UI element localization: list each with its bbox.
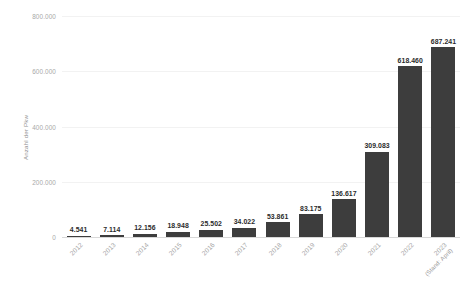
- bar[interactable]: [398, 66, 422, 237]
- bar-value-label: 12.156: [134, 224, 155, 231]
- y-axis-title: Anzahl der Pkw: [22, 60, 36, 160]
- x-axis-tick-year: 2015: [167, 241, 183, 257]
- x-axis-tick-year: 2021: [366, 241, 382, 257]
- x-axis-tick-year: 2017: [234, 241, 250, 257]
- bar[interactable]: [199, 230, 223, 237]
- bar[interactable]: [166, 232, 190, 237]
- bar[interactable]: [332, 199, 356, 237]
- bar-group: 83.175: [299, 16, 323, 237]
- bar[interactable]: [266, 222, 290, 237]
- bar-value-label: 18.948: [167, 222, 188, 229]
- bar-value-label: 136.617: [331, 190, 356, 197]
- bar-group: 7.114: [100, 16, 124, 237]
- x-axis-tick-year: 2018: [267, 241, 283, 257]
- bar-group: 12.156: [133, 16, 157, 237]
- bar[interactable]: [232, 228, 256, 237]
- bar-group: 4.541: [67, 16, 91, 237]
- plot-area: 0200.000400.000600.000800.000 4.5417.114…: [62, 16, 460, 237]
- bar-value-label: 309.083: [364, 142, 389, 149]
- bar[interactable]: [100, 235, 124, 237]
- x-axis-tick-year: 2019: [300, 241, 316, 257]
- y-axis-tick-label: 0: [52, 234, 56, 241]
- y-axis-tick-label: 800.000: [32, 13, 56, 20]
- bar-group: 25.502: [199, 16, 223, 237]
- x-axis-tick-year: 2020: [333, 241, 349, 257]
- bar[interactable]: [299, 214, 323, 237]
- x-axis-tick-year: 2022: [400, 241, 416, 257]
- y-axis-tick-label: 200.000: [32, 178, 56, 185]
- bar-value-label: 53.861: [267, 213, 288, 220]
- bar-group: 136.617: [332, 16, 356, 237]
- bar-group: 53.861: [266, 16, 290, 237]
- bar-value-label: 618.460: [398, 57, 423, 64]
- bar-group: 34.022: [232, 16, 256, 237]
- bar[interactable]: [431, 47, 455, 237]
- bar-group: 18.948: [166, 16, 190, 237]
- bar[interactable]: [67, 236, 91, 237]
- bar-value-label: 7.114: [103, 226, 120, 233]
- x-axis-tick-year: 2013: [101, 241, 117, 257]
- bar-group: 618.460: [398, 16, 422, 237]
- y-axis-tick-label: 600.000: [32, 68, 56, 75]
- bar-value-label: 83.175: [300, 205, 321, 212]
- bar-chart: Anzahl der Pkw 0200.000400.000600.000800…: [0, 0, 472, 302]
- axis-baseline: [62, 237, 460, 238]
- bar-value-label: 4.541: [70, 226, 88, 233]
- bar[interactable]: [133, 234, 157, 237]
- y-axis-tick-label: 400.000: [32, 123, 56, 130]
- bar-value-label: 687.241: [431, 38, 456, 45]
- x-axis-tick-year: 2016: [201, 241, 217, 257]
- bar-group: 309.083: [365, 16, 389, 237]
- x-axis-tick-year: 2012: [68, 241, 84, 257]
- bar-value-label: 34.022: [234, 218, 255, 225]
- x-axis-tick-year: 2014: [134, 241, 150, 257]
- bar-value-label: 25.502: [201, 220, 222, 227]
- bar-group: 687.241: [431, 16, 455, 237]
- x-axis-tick-label: 2012: [0, 241, 84, 302]
- bar[interactable]: [365, 152, 389, 237]
